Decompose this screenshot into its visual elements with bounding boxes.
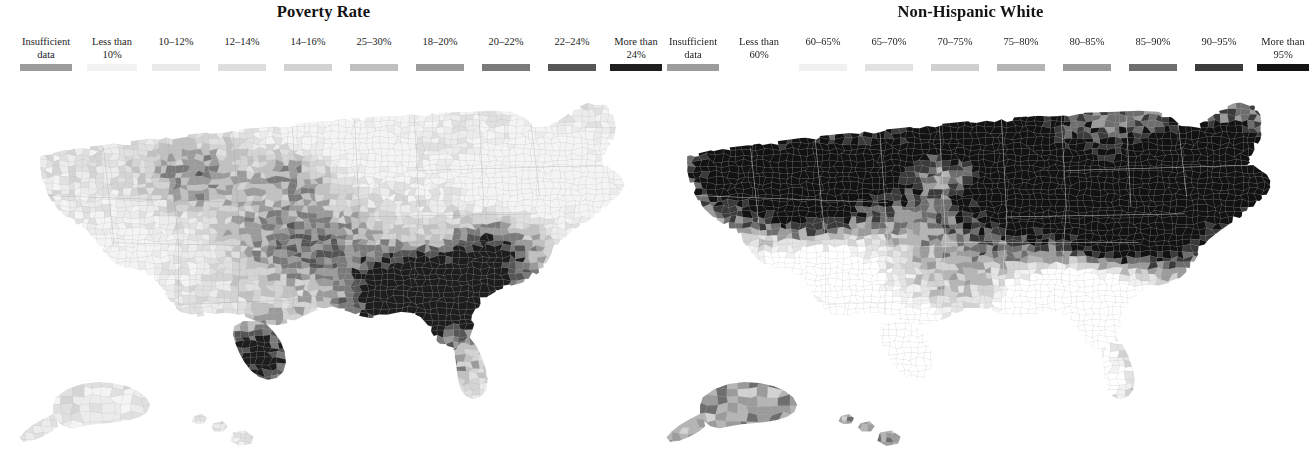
legend-item: 75–80% <box>990 36 1052 71</box>
legend-item-label: 65–70% <box>858 36 920 62</box>
legend-color-swatch <box>1063 64 1111 71</box>
legend-item-label: 75–80% <box>990 36 1052 62</box>
choropleth-map-non-hispanic-white <box>647 88 1294 449</box>
map-container-poverty-rate <box>0 88 647 449</box>
legend-item-label: 25–30% <box>343 36 405 62</box>
legend-item-label: 10–12% <box>145 36 207 62</box>
legend-color-swatch <box>799 64 847 71</box>
legend-item: Insufficient data <box>654 36 732 71</box>
legend-item: 20–22% <box>475 36 537 71</box>
legend-item-label: Less than 60% <box>727 36 791 62</box>
legend-color-swatch <box>20 64 72 71</box>
map-panel-poverty-rate: Poverty Rate Insufficient dataLess than … <box>0 0 647 449</box>
choropleth-map-poverty-rate <box>0 88 647 449</box>
legend-item: 22–24% <box>541 36 603 71</box>
legend-color-swatch <box>667 64 719 71</box>
legend-item-label: 90–95% <box>1188 36 1250 62</box>
legend-item: 25–30% <box>343 36 405 71</box>
legend-item: 60–65% <box>792 36 854 71</box>
legend-item: 70–75% <box>924 36 986 71</box>
legend-item: 14–16% <box>277 36 339 71</box>
legend-item-label: More than 95% <box>1250 36 1313 62</box>
legend-color-swatch <box>482 64 530 71</box>
page-title-poverty-rate: Poverty Rate <box>0 2 647 22</box>
legend-item-label: 85–90% <box>1122 36 1184 62</box>
legend-color-swatch <box>152 64 200 71</box>
legend-item: 18–20% <box>409 36 471 71</box>
legend-item-label: 20–22% <box>475 36 537 62</box>
legend-item: 80–85% <box>1056 36 1118 71</box>
legend-item-label: 14–16% <box>277 36 339 62</box>
legend-color-swatch <box>1257 64 1309 71</box>
legend-item: Less than 60% <box>727 36 791 71</box>
legend-item: More than 95% <box>1250 36 1313 71</box>
legend-color-swatch <box>1195 64 1243 71</box>
legend-color-swatch <box>350 64 398 71</box>
legend-item: Less than 10% <box>80 36 144 71</box>
legend-item-label: 22–24% <box>541 36 603 62</box>
map-panel-non-hispanic-white: Non-Hispanic White Insufficient dataLess… <box>647 0 1294 449</box>
legend-color-swatch <box>865 64 913 71</box>
legend-item-label: 12–14% <box>211 36 273 62</box>
legend-poverty-rate: Insufficient dataLess than 10%10–12%12–1… <box>0 36 647 86</box>
legend-color-swatch <box>548 64 596 71</box>
legend-item: 12–14% <box>211 36 273 71</box>
legend-item: Insufficient data <box>7 36 85 71</box>
legend-color-swatch <box>1129 64 1177 71</box>
legend-color-swatch <box>997 64 1045 71</box>
legend-color-swatch <box>734 64 784 71</box>
legend-item-label: Insufficient data <box>7 36 85 62</box>
legend-non-hispanic-white: Insufficient dataLess than 60%60–65%65–7… <box>647 36 1294 86</box>
legend-color-swatch <box>218 64 266 71</box>
legend-color-swatch <box>87 64 137 71</box>
legend-color-swatch <box>284 64 332 71</box>
legend-color-swatch <box>416 64 464 71</box>
legend-item-label: Insufficient data <box>654 36 732 62</box>
legend-color-swatch <box>931 64 979 71</box>
legend-item: 90–95% <box>1188 36 1250 71</box>
legend-item: 10–12% <box>145 36 207 71</box>
map-container-non-hispanic-white <box>647 88 1294 449</box>
legend-item-label: 60–65% <box>792 36 854 62</box>
legend-item-label: Less than 10% <box>80 36 144 62</box>
legend-item-label: 18–20% <box>409 36 471 62</box>
legend-item-label: 80–85% <box>1056 36 1118 62</box>
legend-item: 85–90% <box>1122 36 1184 71</box>
legend-item-label: 70–75% <box>924 36 986 62</box>
page-title-non-hispanic-white: Non-Hispanic White <box>647 2 1294 22</box>
legend-item: 65–70% <box>858 36 920 71</box>
